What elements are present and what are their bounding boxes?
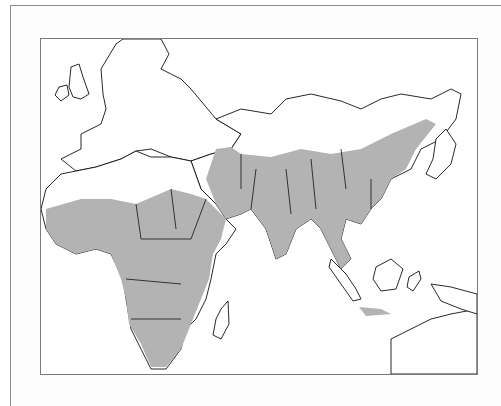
landmass-new-guinea xyxy=(431,284,477,314)
landmass-borneo xyxy=(373,259,403,291)
range-java xyxy=(359,307,391,316)
landmass-europe xyxy=(61,39,241,171)
landmass-britain xyxy=(69,64,89,99)
range-map xyxy=(41,39,477,374)
map-frame: Distribution range map xyxy=(40,38,478,375)
landmass-ireland xyxy=(55,85,69,101)
landmass-sulawesi xyxy=(407,271,421,291)
landmass-australia xyxy=(391,309,477,374)
range-africa xyxy=(46,189,226,367)
landmass-madagascar xyxy=(213,301,229,339)
